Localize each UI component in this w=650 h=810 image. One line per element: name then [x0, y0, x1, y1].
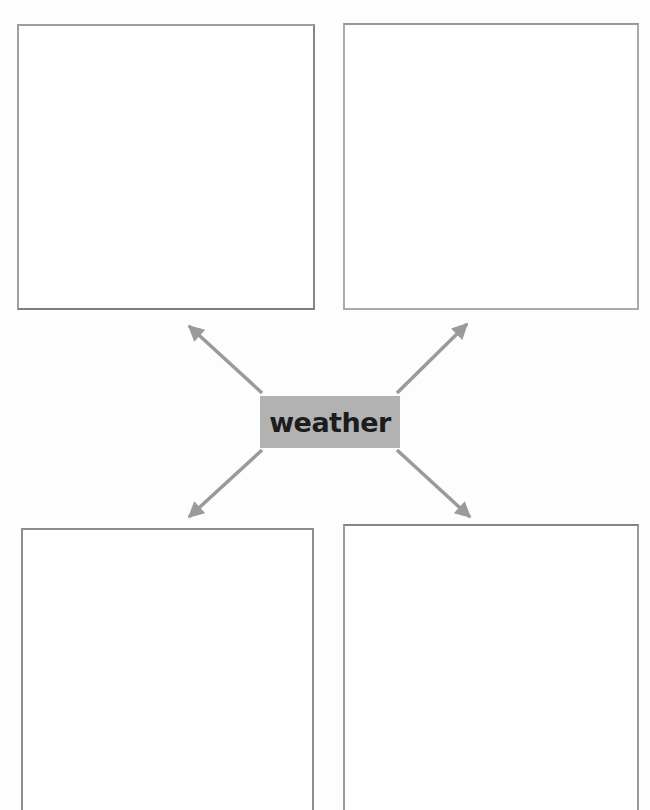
answer-box-bottom-right — [343, 524, 639, 810]
arrow-top-right-icon — [397, 324, 467, 393]
answer-box-top-right — [343, 23, 639, 310]
answer-box-bottom-left — [21, 528, 314, 810]
arrow-top-left-icon — [189, 326, 262, 393]
arrow-bottom-right-icon — [397, 450, 470, 517]
center-topic-box: weather — [260, 396, 400, 448]
arrow-bottom-left-icon — [189, 450, 262, 517]
answer-box-top-left — [17, 24, 315, 310]
mind-map-worksheet-page: weather — [0, 0, 650, 810]
center-topic-label: weather — [269, 407, 391, 438]
